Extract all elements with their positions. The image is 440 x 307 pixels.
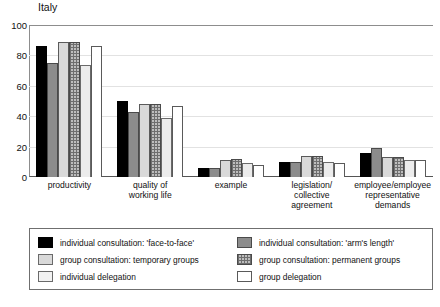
bar[interactable] [139, 104, 150, 177]
chart-title: Italy [38, 1, 57, 13]
legend-swatch-icon [237, 254, 252, 265]
x-axis-label-line: collective agreement [272, 190, 351, 210]
y-axis-tick: 100 [1, 21, 27, 30]
legend-swatch-icon [38, 254, 53, 265]
legend-item[interactable]: individual consultation: 'face-to-face' [30, 234, 231, 251]
y-axis: 020406080100 [0, 25, 27, 177]
x-axis-label-line: example [192, 180, 271, 190]
bar-group [191, 25, 272, 177]
bar[interactable] [198, 168, 209, 177]
y-axis-tick: 40 [1, 112, 27, 121]
bar[interactable] [279, 162, 290, 177]
legend-item[interactable]: group consultation: temporary groups [30, 251, 231, 268]
y-axis-tick: 0 [1, 173, 27, 182]
bar[interactable] [69, 42, 80, 177]
x-axis-label-line: employee/employee [353, 180, 432, 190]
bar[interactable] [382, 157, 393, 177]
x-axis-label-line: demands [353, 200, 432, 210]
legend-label: individual consultation: 'face-to-face' [60, 238, 194, 248]
legend-item[interactable]: individual delegation [30, 268, 231, 285]
bar[interactable] [220, 160, 231, 177]
x-axis-label-line: productivity [30, 180, 109, 190]
legend-label: group consultation: temporary groups [60, 255, 199, 265]
x-axis-label-line: legislation/ [272, 180, 351, 190]
bar[interactable] [360, 153, 371, 177]
bar[interactable] [231, 159, 242, 177]
bar[interactable] [36, 46, 47, 177]
x-axis-label-line: working life [111, 190, 190, 200]
bar-group [271, 25, 352, 177]
legend-item[interactable]: group consultation: permanent groups [231, 251, 432, 268]
bar[interactable] [371, 148, 382, 177]
x-axis-label: quality ofworking life [110, 180, 191, 222]
x-axis-labels: productivityquality ofworking lifeexampl… [29, 180, 433, 222]
plot-area [29, 25, 433, 177]
bar[interactable] [290, 162, 301, 177]
bar[interactable] [117, 101, 128, 177]
legend-item[interactable]: individual consultation: 'arm's length' [231, 234, 432, 251]
bar[interactable] [312, 156, 323, 177]
bar[interactable] [242, 163, 253, 177]
x-axis-label: example [191, 180, 272, 222]
legend-swatch-icon [237, 271, 252, 282]
legend: individual consultation: 'face-to-face'i… [29, 228, 433, 290]
bar-groups [29, 25, 433, 177]
y-axis-tick: 20 [1, 143, 27, 152]
legend-swatch-icon [237, 237, 252, 248]
bar[interactable] [334, 163, 345, 177]
y-axis-tick: 60 [1, 82, 27, 91]
legend-swatch-icon [38, 237, 53, 248]
x-axis-label-line: representative [353, 190, 432, 200]
bar[interactable] [47, 63, 58, 177]
bar[interactable] [161, 118, 172, 177]
bar-group [110, 25, 191, 177]
bar[interactable] [128, 112, 139, 177]
x-axis-label: legislation/collective agreement [271, 180, 352, 222]
legend-label: group delegation [259, 272, 321, 282]
legend-label: individual delegation [60, 272, 136, 282]
bar[interactable] [253, 165, 264, 177]
legend-swatch-icon [38, 271, 53, 282]
bar[interactable] [172, 106, 183, 177]
legend-item[interactable]: group delegation [231, 268, 432, 285]
bar[interactable] [209, 168, 220, 177]
bar[interactable] [91, 46, 102, 177]
x-axis-label: employee/employeerepresentativedemands [352, 180, 433, 222]
bar[interactable] [301, 156, 312, 177]
bar[interactable] [393, 157, 404, 177]
bar-group [352, 25, 433, 177]
legend-label: group consultation: permanent groups [259, 255, 400, 265]
bar[interactable] [415, 160, 426, 177]
bar[interactable] [404, 160, 415, 177]
x-axis-label-line: quality of [111, 180, 190, 190]
y-axis-tick: 80 [1, 51, 27, 60]
x-axis-label: productivity [29, 180, 110, 222]
bar[interactable] [150, 104, 161, 177]
bar[interactable] [323, 162, 334, 177]
bar[interactable] [80, 65, 91, 177]
bar[interactable] [58, 42, 69, 177]
legend-grid: individual consultation: 'face-to-face'i… [30, 229, 432, 289]
bar-group [29, 25, 110, 177]
legend-label: individual consultation: 'arm's length' [259, 238, 394, 248]
